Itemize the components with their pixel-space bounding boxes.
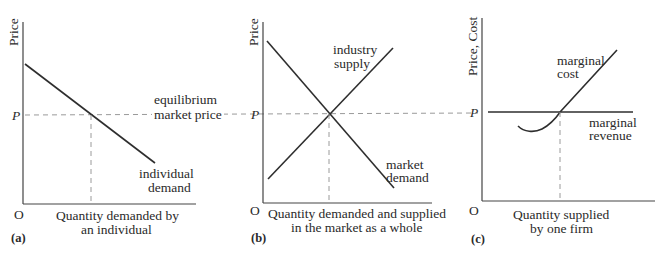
marginal-cost-label-line2: cost (557, 66, 579, 81)
panel-b-y-axis-label: Price (246, 18, 261, 46)
panel-a-origin-label: O (14, 207, 24, 222)
marginal-revenue-label-line2: revenue (589, 128, 632, 143)
individual-demand-curve (25, 64, 155, 163)
panel-c-x-axis-label-line1: Quantity supplied (513, 207, 610, 222)
panel-b-x-axis-label-line1: Quantity demanded and supplied (268, 206, 446, 221)
individual-demand-label-line1: individual (139, 166, 194, 181)
panel-b-price-level-label: P (250, 107, 259, 122)
panel-c-origin-label: O (469, 203, 479, 218)
panel-a-x-axis-label-line2: an individual (81, 222, 152, 237)
panel-b: Price P O industry supply market demand … (246, 18, 446, 245)
panel-a-x-axis-label-line1: Quantity demanded by (56, 208, 179, 223)
panel-c-price-level-label: P (469, 105, 478, 120)
panel-c: Price, Cost P O marginal cost marginal r… (465, 17, 655, 246)
panel-a-tag: (a) (11, 231, 26, 245)
panel-a-price-level-label: P (11, 108, 20, 123)
individual-demand-label-line2: demand (148, 180, 191, 195)
economics-figure: Price P O individual demand Quantity dem… (0, 0, 663, 258)
market-demand-label-line2: demand (386, 170, 429, 185)
industry-supply-label-line1: industry (333, 42, 378, 57)
panel-b-x-axis-label-line2: in the market as a whole (291, 220, 423, 235)
panel-c-y-axis-label: Price, Cost (465, 17, 480, 76)
panel-c-x-axis-label-line2: by one firm (530, 221, 593, 236)
equilibrium-label-line1: equilibrium (154, 92, 217, 107)
panel-a: Price P O individual demand Quantity dem… (6, 18, 196, 245)
equilibrium-label-line2-visible: market price (154, 107, 222, 122)
panel-b-tag: (b) (251, 231, 266, 245)
panel-a-y-axis-label: Price (6, 18, 21, 46)
panel-c-tag: (c) (471, 232, 485, 246)
panel-b-origin-label: O (250, 203, 260, 218)
industry-supply-label-line2: supply (334, 56, 370, 71)
